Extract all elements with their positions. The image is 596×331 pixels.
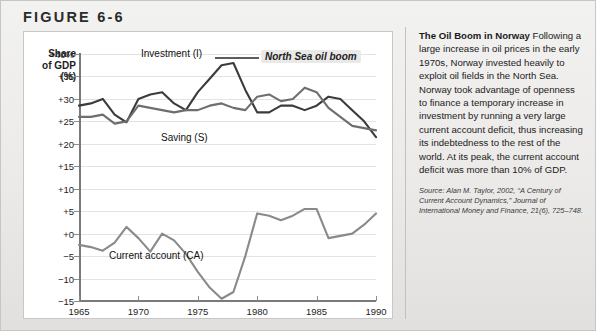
chart-panel: Share of GDP (%) Investment (I) Saving (…: [23, 31, 393, 319]
caption-text: The Oil Boom in Norway Following a large…: [419, 29, 585, 176]
caption-body: Following a large increase in oil prices…: [419, 30, 583, 175]
caption-lead: The Oil Boom in Norway: [419, 30, 530, 41]
y-tick-label: +15: [58, 161, 74, 172]
y-tick-label: +30: [58, 93, 74, 104]
y-tick: [74, 301, 79, 302]
panel-divider: [405, 27, 406, 319]
y-tick-label: +40%: [49, 49, 74, 60]
y-axis-title-line-2: of GDP: [28, 60, 76, 72]
x-tick-labels: 196519701975198019851990: [79, 54, 376, 301]
x-tick-label: 1990: [365, 306, 386, 317]
y-tick-label: −10: [58, 273, 74, 284]
figure-header: FIGURE 6-6: [23, 9, 125, 25]
figure-card: FIGURE 6-6 Share of GDP (%) Investment (…: [0, 0, 596, 331]
y-tick-label: +35: [58, 71, 74, 82]
x-tick-label: 1980: [247, 306, 268, 317]
y-tick-label: −5: [63, 251, 74, 262]
y-tick-label: +0: [63, 228, 74, 239]
y-tick-label: −15: [58, 296, 74, 307]
x-tick: [376, 296, 377, 301]
x-tick-label: 1965: [68, 306, 89, 317]
text-panel: The Oil Boom in Norway Following a large…: [419, 29, 585, 215]
x-tick-label: 1975: [187, 306, 208, 317]
y-tick-label: +25: [58, 116, 74, 127]
source-note: Source: Alan M. Taylor, 2002, “A Century…: [419, 186, 585, 215]
y-tick-label: +20: [58, 138, 74, 149]
y-tick-label: +5: [63, 206, 74, 217]
x-tick-label: 1970: [128, 306, 149, 317]
x-tick-label: 1985: [306, 306, 327, 317]
y-tick-label: +10: [58, 183, 74, 194]
